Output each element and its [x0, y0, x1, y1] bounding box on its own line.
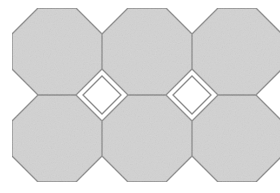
octagon-r2-c2 — [102, 95, 192, 182]
octagon-r1-c3 — [192, 8, 280, 95]
octagon-r2-c1 — [12, 95, 102, 182]
octagon-tiles-layer — [12, 8, 280, 182]
octagon-tiling-figure — [0, 0, 280, 193]
octagon-r1-c1 — [12, 8, 102, 95]
tiling-canvas — [0, 0, 280, 193]
octagon-r2-c3 — [192, 95, 280, 182]
octagon-r1-c2 — [102, 8, 192, 95]
